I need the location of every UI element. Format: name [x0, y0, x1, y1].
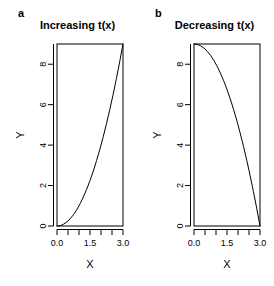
- panel-b-ylabel: Y: [151, 131, 163, 139]
- svg-text:4: 4: [175, 143, 185, 148]
- panel-b-y-ticks: [185, 64, 191, 226]
- svg-text:0.0: 0.0: [188, 238, 201, 248]
- svg-text:1.5: 1.5: [84, 238, 97, 248]
- panel-b: b Decreasing t(x) 0 2 4 6 8: [137, 0, 274, 286]
- panel-b-plot-box: [194, 44, 260, 226]
- svg-text:8: 8: [38, 62, 48, 67]
- svg-text:3.0: 3.0: [254, 238, 267, 248]
- panel-a-plot: 0 2 4 6 8 0.0 1.5 3.0: [0, 0, 137, 286]
- panel-a-xlabel: X: [86, 258, 94, 270]
- svg-text:2: 2: [175, 183, 185, 188]
- panel-a-x-ticks: [57, 230, 123, 236]
- panel-a-plot-box: [57, 44, 123, 226]
- panel-a-curve: [57, 44, 123, 226]
- figure-container: a Increasing t(x) 0 2 4 6 8: [0, 0, 274, 286]
- panel-b-curve: [194, 44, 260, 226]
- panel-b-x-ticks: [194, 230, 260, 236]
- svg-text:6: 6: [38, 102, 48, 107]
- panel-b-plot: 0 2 4 6 8 0.0 1.5 3.0 X Y: [137, 0, 274, 286]
- svg-text:1.5: 1.5: [221, 238, 234, 248]
- svg-text:3.0: 3.0: [117, 238, 130, 248]
- panel-b-x-ticklabels: 0.0 1.5 3.0: [188, 238, 267, 248]
- panel-b-xlabel: X: [223, 258, 231, 270]
- svg-text:0.0: 0.0: [51, 238, 64, 248]
- svg-text:0: 0: [38, 223, 48, 228]
- svg-text:0: 0: [175, 223, 185, 228]
- svg-text:8: 8: [175, 62, 185, 67]
- panel-b-y-ticklabels: 0 2 4 6 8: [175, 62, 185, 229]
- panel-a-y-ticklabels: 0 2 4 6 8: [38, 62, 48, 229]
- svg-text:4: 4: [38, 143, 48, 148]
- svg-text:2: 2: [38, 183, 48, 188]
- svg-text:6: 6: [175, 102, 185, 107]
- panel-a: a Increasing t(x) 0 2 4 6 8: [0, 0, 137, 286]
- panel-a-ylabel: Y: [14, 131, 26, 139]
- panel-a-y-ticks: [48, 64, 54, 226]
- panel-a-x-ticklabels: 0.0 1.5 3.0: [51, 238, 130, 248]
